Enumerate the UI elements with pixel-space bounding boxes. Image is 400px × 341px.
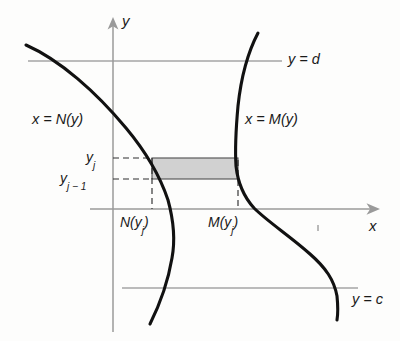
curve-right-M — [236, 33, 338, 320]
figure-container: y x x = N(y) x = M(y) y = d y = c yj yj … — [0, 0, 400, 341]
curve-right-label: x = M(y) — [245, 112, 298, 127]
tick-label-y-upper: yj — [86, 150, 95, 168]
tick-label-x-left: N(yj) — [120, 215, 149, 233]
approximating-rectangle — [152, 158, 238, 179]
tick-label-y-lower: yj − 1 — [60, 171, 86, 189]
tick-label-x-right: M(yj) — [208, 215, 238, 233]
y-axis-label: y — [122, 13, 130, 28]
curve-left-label: x = N(y) — [32, 112, 83, 127]
x-axis-label: x — [369, 218, 377, 233]
curve-left-N — [26, 45, 174, 324]
level-line-bottom-label: y = c — [352, 292, 383, 307]
level-line-top-label: y = d — [288, 52, 320, 67]
